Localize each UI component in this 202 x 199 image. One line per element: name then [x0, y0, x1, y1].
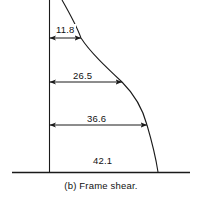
dimension-label-42-1: 42.1 — [92, 155, 113, 166]
shear-envelope-curve — [62, 0, 158, 172]
dimension-label-26-5: 26.5 — [72, 70, 93, 81]
dimension-label-36-6: 36.6 — [86, 113, 107, 124]
figure-caption: (b) Frame shear. — [0, 180, 202, 191]
dimension-label-11-8: 11.8 — [55, 24, 76, 35]
frame-shear-figure: 11.8 26.5 36.6 42.1 (b) Frame shear. — [0, 0, 202, 199]
shear-diagram-svg — [0, 0, 202, 199]
